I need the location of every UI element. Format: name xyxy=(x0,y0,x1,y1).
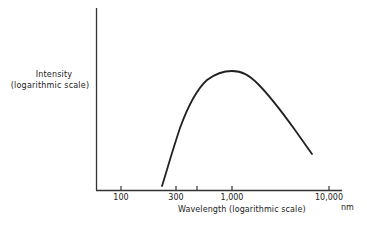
x-tick-label-10000: 10,000 xyxy=(315,193,343,202)
spectrum-chart: Intensity (logarithmic scale) 100 300 1,… xyxy=(0,0,367,228)
x-axis-unit: nm xyxy=(341,203,354,212)
y-axis-title-line1: Intensity xyxy=(6,69,102,80)
x-axis-ticks xyxy=(121,186,329,190)
x-tick-label-300: 300 xyxy=(168,193,183,202)
x-axis-title: Wavelength (logarithmic scale) xyxy=(178,205,306,214)
y-axis-title-line2: (logarithmic scale) xyxy=(2,80,98,91)
x-tick-label-1000: 1,000 xyxy=(221,193,244,202)
x-tick-label-100: 100 xyxy=(113,193,128,202)
intensity-curve xyxy=(162,71,312,186)
